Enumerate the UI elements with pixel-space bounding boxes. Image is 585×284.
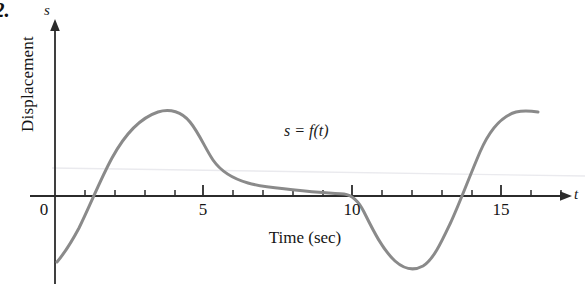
x-tick-label-10: 10 <box>344 200 361 220</box>
figure-page: 2. <box>0 0 585 284</box>
y-axis-arrowhead <box>50 19 60 31</box>
x-axis-label: Time (sec) <box>205 228 405 248</box>
x-tick-label-15: 15 <box>493 200 510 220</box>
x-axis-major-ticks <box>203 185 501 196</box>
x-tick-label-5: 5 <box>199 200 208 220</box>
y-axis-label: Displacement <box>18 14 38 154</box>
y-axis-symbol: s <box>44 2 50 19</box>
x-tick-label-0: 0 <box>40 200 49 220</box>
curve-equation-label: s = f(t) <box>284 122 329 140</box>
scan-artifact-line <box>52 168 585 176</box>
x-axis-symbol: t <box>574 186 578 203</box>
x-axis-arrowhead <box>560 191 572 200</box>
